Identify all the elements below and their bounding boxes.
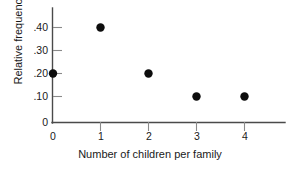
data-point	[192, 92, 200, 100]
x-tick-label-4: 4	[233, 131, 257, 142]
x-tick-label-2: 2	[137, 131, 161, 142]
data-point	[144, 69, 152, 77]
y-tick-label-10: .10	[24, 91, 48, 102]
data-point	[49, 69, 57, 77]
data-points	[49, 23, 249, 100]
scatter-chart: .40 .30 .20 .10 0 0 1 2 3 4 Number of ch…	[0, 0, 300, 170]
y-tick-label-40: .40	[24, 22, 48, 33]
y-axis-title: Relative frequency	[12, 0, 24, 85]
y-tick-label-30: .30	[24, 45, 48, 56]
x-axis-ticks	[101, 122, 245, 131]
x-tick-label-3: 3	[185, 131, 209, 142]
data-point	[96, 23, 104, 31]
x-axis-title: Number of children per family	[0, 148, 300, 160]
x-tick-label-1: 1	[89, 131, 113, 142]
x-tick-label-0: 0	[41, 131, 65, 142]
y-axis-title-wrapper: Relative frequency	[8, 0, 26, 94]
y-axis-ticks	[53, 28, 62, 97]
y-tick-label-20: .20	[24, 68, 48, 79]
y-tick-label-0: 0	[24, 117, 48, 128]
data-point	[240, 92, 248, 100]
